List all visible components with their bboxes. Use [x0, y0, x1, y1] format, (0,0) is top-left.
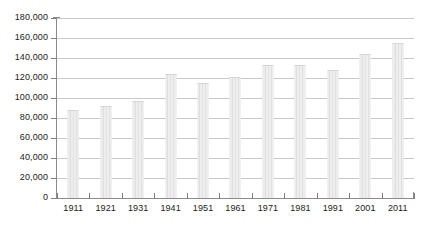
bar[interactable]	[68, 110, 79, 198]
y-axis-label: 60,000	[0, 132, 48, 142]
y-axis-label: 20,000	[0, 172, 48, 182]
x-axis-line	[56, 198, 414, 199]
bar[interactable]	[165, 74, 176, 198]
x-axis-tick	[284, 193, 285, 199]
bar-slot	[89, 18, 121, 198]
y-axis-label: 120,000	[0, 72, 48, 82]
bar[interactable]	[230, 77, 241, 198]
y-axis-label: 100,000	[0, 92, 48, 102]
x-axis-label: 1961	[219, 203, 251, 213]
x-axis-tick	[122, 193, 123, 199]
bar-slot	[57, 18, 89, 198]
x-axis-label: 1931	[122, 203, 154, 213]
x-axis-label: 1921	[89, 203, 121, 213]
x-axis-tick	[382, 193, 383, 199]
bar[interactable]	[262, 65, 273, 198]
bar[interactable]	[133, 101, 144, 198]
y-axis-label: 180,000	[0, 12, 48, 22]
x-axis-label: 1971	[252, 203, 284, 213]
x-axis-tick	[187, 193, 188, 199]
x-axis-label: 2001	[349, 203, 381, 213]
x-axis-label: 1991	[317, 203, 349, 213]
y-axis-label: 80,000	[0, 112, 48, 122]
x-axis-tick	[89, 193, 90, 199]
bar-slot	[187, 18, 219, 198]
bar[interactable]	[392, 43, 403, 198]
bar-slot	[317, 18, 349, 198]
bar-slot	[154, 18, 186, 198]
x-axis-tick	[57, 193, 58, 199]
bar-chart: 020,00040,00060,00080,000100,000120,0001…	[0, 0, 424, 238]
y-axis-label: 160,000	[0, 32, 48, 42]
bar[interactable]	[295, 65, 306, 198]
bar-slot	[122, 18, 154, 198]
x-axis-tick	[317, 193, 318, 199]
x-axis-tick	[349, 193, 350, 199]
x-axis-label: 2011	[382, 203, 414, 213]
y-axis-label: 40,000	[0, 152, 48, 162]
bar-slot	[284, 18, 316, 198]
x-axis-label: 1981	[284, 203, 316, 213]
bar-slot	[382, 18, 414, 198]
x-axis-tick	[414, 193, 415, 199]
x-axis-label: 1951	[187, 203, 219, 213]
x-axis-tick	[252, 193, 253, 199]
y-axis-label: 0	[0, 192, 48, 202]
x-axis-tick	[219, 193, 220, 199]
x-axis-label: 1941	[154, 203, 186, 213]
bar-slot	[219, 18, 251, 198]
x-axis-tick	[154, 193, 155, 199]
x-axis-label: 1911	[57, 203, 89, 213]
y-axis-label: 140,000	[0, 52, 48, 62]
bar-slot	[349, 18, 381, 198]
bar-slot	[252, 18, 284, 198]
bar[interactable]	[100, 106, 111, 198]
bar[interactable]	[360, 54, 371, 198]
bar[interactable]	[327, 70, 338, 198]
bar[interactable]	[198, 83, 209, 198]
bars-layer	[57, 18, 414, 198]
